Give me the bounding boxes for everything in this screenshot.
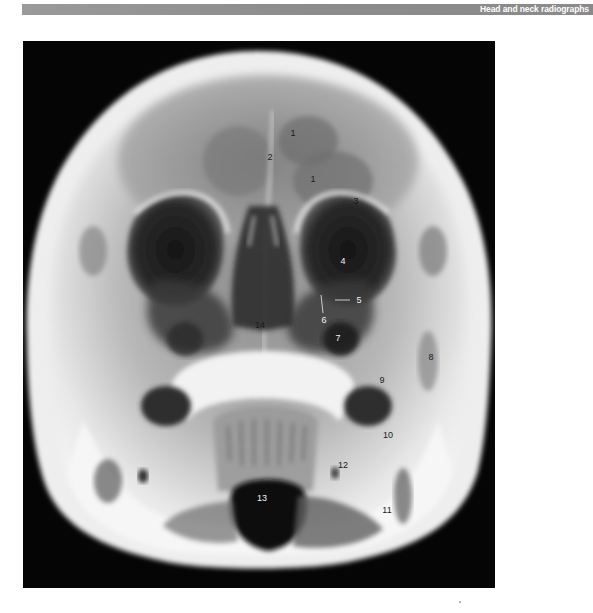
section-title: Head and neck radiographs [480,3,589,15]
label-9: 9 [379,375,384,385]
skull-radiograph [23,41,495,588]
skull-xray-illustration [23,41,495,588]
label-4: 4 [340,256,345,266]
label-11: 11 [382,505,391,515]
label-2: 2 [267,152,272,162]
label-14: 14 [255,320,265,330]
section-header-bar: Head and neck radiographs [22,4,593,15]
label-1-frontal-sinus-b: 1 [310,174,315,184]
label-12: 12 [338,460,348,470]
label-13: 13 [257,493,267,503]
label-3: 3 [353,196,358,206]
label-5: 5 [356,295,361,305]
label-6: 6 [321,315,326,325]
label-7: 7 [335,333,340,343]
label-1-frontal-sinus: 1 [290,128,295,138]
print-speck [459,601,461,603]
label-8: 8 [428,352,433,362]
label-10: 10 [383,430,393,440]
